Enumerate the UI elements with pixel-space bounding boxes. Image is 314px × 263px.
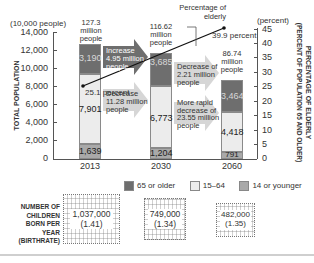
arrow-label-decrease-2: Decrease of2.21 millionpeople: [177, 63, 217, 87]
pct-callout: Percentage of elderly: [170, 3, 226, 21]
children-label: NUMBER OFCHILDRENBORN PER YEAR(BIRTHRATE…: [8, 203, 60, 246]
legend-item-young: 14 or younger: [239, 181, 301, 191]
children-values: 749,000 (1.34): [148, 209, 182, 229]
pct-label-2013: 25.1 percent: [85, 88, 129, 97]
arrow-label-rapid-decrease: More rapiddecrease of23.55 millionpeople: [177, 99, 219, 129]
pct-label-2060: 39.9 percent: [212, 31, 256, 40]
children-values: 1,037,000 (1.41): [70, 209, 113, 229]
children-box-2060: 482,000 (1.35): [216, 203, 255, 237]
arrow-label-increase: Increase4.95 millionpeople: [106, 47, 144, 71]
legend: 65 or older 15–64 14 or younger: [124, 174, 312, 192]
legend-item-old: 65 or older: [124, 181, 175, 191]
children-values: 482,000 (1.35): [220, 210, 251, 230]
children-box-2013: 1,037,000 (1.41): [63, 194, 120, 244]
children-box-2030: 749,000 (1.34): [144, 198, 186, 240]
legend-item-mid: 15–64: [190, 181, 225, 191]
divider: [0, 254, 314, 256]
